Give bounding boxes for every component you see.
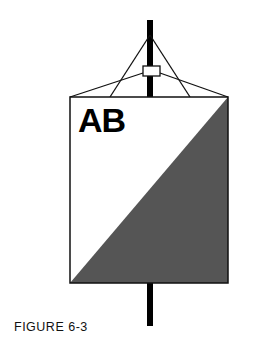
figure-caption: FIGURE 6-3: [14, 321, 88, 334]
clip-box: [143, 66, 160, 76]
orienteering-control-marker-diagram: [0, 0, 258, 348]
marker-label: AB: [78, 103, 125, 137]
